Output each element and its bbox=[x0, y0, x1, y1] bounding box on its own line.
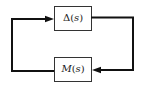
m-block-label: M(s) bbox=[54, 63, 92, 75]
m-arg: s bbox=[76, 63, 81, 74]
delta-arg: s bbox=[74, 12, 79, 23]
delta-symbol: Δ bbox=[63, 12, 70, 23]
forward-path-line bbox=[91, 18, 133, 71]
delta-block-label: Δ(s) bbox=[54, 12, 92, 24]
feedback-path-line bbox=[12, 19, 54, 71]
arrow-into-m-icon bbox=[92, 67, 101, 73]
m-symbol: M bbox=[61, 63, 71, 74]
arrow-into-delta-icon bbox=[45, 16, 54, 22]
